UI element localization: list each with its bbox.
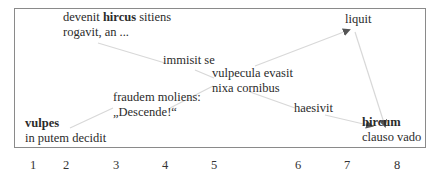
node-vulpecula-line1: vulpecula evasit bbox=[212, 66, 293, 80]
step-number-4: 4 bbox=[158, 158, 172, 173]
node-hircum: hircum clauso vado bbox=[362, 115, 421, 145]
node-hircus: devenit hircus sitiens rogavit, an ... bbox=[63, 10, 171, 40]
node-hircum-text: clauso vado bbox=[362, 130, 421, 144]
node-vulpecula: vulpecula evasit nixa cornibus bbox=[212, 66, 293, 96]
step-number-8: 8 bbox=[390, 158, 404, 173]
node-haesivit-line1: haesivit bbox=[294, 101, 333, 115]
node-fraudem-line1: fraudem moliens: bbox=[113, 90, 201, 104]
node-fraudem-line2: „Descende!“ bbox=[113, 105, 177, 119]
node-immisit-line1: immisit se bbox=[163, 53, 215, 67]
step-number-6: 6 bbox=[291, 158, 305, 173]
node-hircum-title: hircum bbox=[362, 115, 401, 129]
node-vulpecula-line2: nixa cornibus bbox=[212, 81, 280, 95]
step-number-5: 5 bbox=[207, 158, 221, 173]
step-number-1: 1 bbox=[26, 158, 40, 173]
node-hircus-title: hircus bbox=[103, 10, 136, 24]
node-hircus-pre: devenit bbox=[63, 10, 103, 24]
node-hircus-text: rogavit, an ... bbox=[63, 25, 129, 39]
node-vulpes-title: vulpes bbox=[25, 116, 59, 130]
link-vulpecula-liquit bbox=[255, 30, 349, 66]
step-number-2: 2 bbox=[59, 158, 73, 173]
step-number-3: 3 bbox=[109, 158, 123, 173]
node-haesivit: haesivit bbox=[294, 101, 333, 116]
step-number-7: 7 bbox=[340, 158, 354, 173]
node-hircus-post: sitiens bbox=[136, 10, 171, 24]
link-liquit-hircum bbox=[355, 32, 385, 126]
node-vulpes: vulpes in putem decidit bbox=[25, 116, 106, 146]
link-rogavit-immisit bbox=[98, 43, 165, 63]
node-liquit-line1: liquit bbox=[345, 12, 371, 26]
node-fraudem: fraudem moliens: „Descende!“ bbox=[113, 90, 201, 120]
node-vulpes-text: in putem decidit bbox=[25, 131, 106, 145]
node-liquit: liquit bbox=[345, 12, 371, 27]
node-immisit: immisit se bbox=[163, 53, 215, 68]
